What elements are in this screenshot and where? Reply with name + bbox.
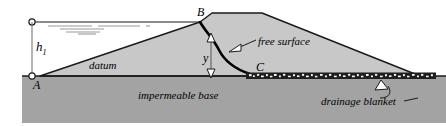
drainage-blanket-region: [246, 73, 436, 80]
water-surface-hatch: [48, 26, 150, 34]
label-impermeable-base: impermeable base: [138, 90, 218, 101]
label-datum: datum: [89, 60, 117, 71]
label-point-a: A: [33, 79, 40, 91]
seepage-dam-figure: B h1 y C A datum free surface impermeabl…: [0, 0, 446, 126]
label-head-h1: h1: [36, 40, 47, 57]
label-point-c: C: [256, 61, 264, 73]
label-height-y: y: [203, 52, 208, 64]
label-point-b: B: [197, 6, 204, 18]
figure-canvas: [0, 0, 446, 126]
label-head-h1-subscript: 1: [43, 48, 47, 57]
label-free-surface: free surface: [258, 36, 310, 47]
label-drainage-blanket: drainage blanket: [321, 96, 396, 107]
